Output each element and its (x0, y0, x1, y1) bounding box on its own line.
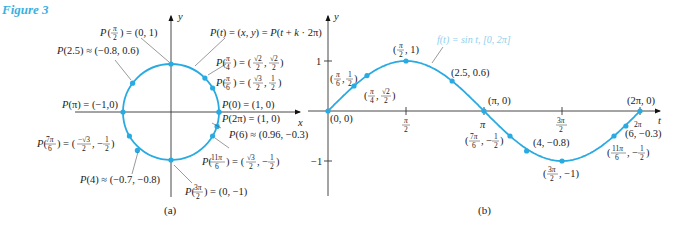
svg-text:1: 1 (271, 74, 275, 83)
legend-label: f(t) = sin t, [0, 2π] (437, 34, 511, 46)
svg-text:−√3: −√3 (78, 135, 90, 144)
svg-text:(: ( (465, 135, 469, 147)
svg-text:π: π (113, 24, 117, 33)
svg-text:2: 2 (640, 153, 644, 162)
label-p-4: P(4) ≈ (−0.7, −0.8) (79, 174, 161, 186)
y-axis-label-b: y (333, 11, 339, 22)
svg-text:, 1): , 1) (405, 44, 420, 56)
pt-label-pi: (π, 0) (488, 95, 511, 107)
svg-text:√3: √3 (247, 153, 255, 162)
svg-text:2: 2 (494, 141, 498, 150)
svg-text:6: 6 (336, 79, 340, 88)
label-p-pi-over-6: P( π 6 ) = ( √3 2 , 1 2 ) (215, 74, 282, 92)
circle-point (210, 85, 215, 90)
svg-text:, −: , − (92, 138, 103, 149)
y-axis-label: y (177, 11, 183, 22)
label-p-general: P(t) = (x, y) = P(t + k · 2π) (209, 27, 322, 39)
svg-text:P(2.5) ≈ (−0.8, 0.6): P(2.5) ≈ (−0.8, 0.6) (56, 45, 139, 57)
svg-text:7π: 7π (46, 135, 54, 144)
sine-point (364, 73, 369, 78)
panel-a-labels: P( π 2 ) = (0, 1) P(t) = (x, y) = P(t + … (36, 24, 322, 201)
sine-point (450, 78, 455, 83)
tick-1: 1 (316, 56, 321, 67)
legend-leader (432, 47, 443, 63)
tick-minus-1: −1 (311, 156, 322, 167)
label-p-11pi-over-6: P( 11π 6 ) = ( √3 2 , − 1 2 ) (201, 153, 280, 171)
circle-point (168, 61, 173, 66)
svg-text:1: 1 (494, 132, 498, 141)
svg-text:) = (: ) = ( (233, 77, 252, 89)
svg-text:2: 2 (559, 125, 563, 134)
svg-text:): ) (354, 73, 358, 85)
svg-text:(: ( (607, 147, 611, 159)
sine-point (351, 83, 356, 88)
circle-point (127, 133, 132, 138)
svg-text:): ) (111, 138, 115, 150)
label-p-6: P(6) ≈ (0.96, −0.3) (228, 129, 309, 141)
label-p-2-5: P(2.5) ≈ (−0.8, 0.6) (56, 45, 139, 57)
svg-text:): ) (500, 135, 504, 147)
tick-pi: π (480, 119, 486, 130)
svg-text:4: 4 (226, 63, 230, 72)
t-axis-label: t (658, 115, 662, 126)
svg-text:): ) (278, 77, 282, 89)
pt-label-4: (4, −0.8) (533, 137, 570, 149)
svg-text:√2: √2 (254, 54, 262, 63)
pt-label-7pi6: ( 7π 6 , − 1 2 ) (465, 132, 504, 150)
pt-label-2-5: (2.5, 0.6) (451, 67, 490, 79)
svg-text:2: 2 (113, 33, 117, 42)
svg-text:): ) (392, 90, 396, 102)
svg-text:√2: √2 (382, 87, 390, 96)
svg-text:6: 6 (226, 83, 230, 92)
pt-label-11pi6: ( 11π 6 , − 1 2 ) (607, 144, 650, 162)
sine-point (559, 158, 564, 163)
svg-text:P(: P( (99, 27, 111, 39)
svg-text:, −: , − (257, 156, 268, 167)
svg-text:) = (: ) = ( (226, 156, 245, 168)
svg-text:π: π (399, 41, 403, 50)
svg-text:1: 1 (270, 153, 274, 162)
circle-point (168, 157, 173, 162)
circle-point (202, 76, 207, 81)
svg-text:): ) (646, 147, 650, 159)
caption-b: (b) (478, 204, 491, 217)
svg-text:2: 2 (272, 63, 276, 72)
svg-text:6: 6 (48, 144, 52, 153)
label-p-0: P(0) = (1, 0) (221, 99, 275, 111)
sine-point (637, 108, 642, 113)
figure-canvas: x y P( π 2 ) = (0, 1) P(t) = (x (0, 0, 675, 233)
svg-text:) = (: ) = ( (233, 57, 252, 69)
svg-text:√3: √3 (254, 74, 262, 83)
svg-text:): ) (276, 156, 280, 168)
svg-text:2: 2 (82, 144, 86, 153)
svg-text:2: 2 (256, 63, 260, 72)
svg-text:, −: , − (481, 135, 492, 146)
circle-point (210, 133, 215, 138)
svg-text:) = (: ) = ( (57, 138, 76, 150)
svg-text:π: π (226, 54, 230, 63)
svg-text:4: 4 (370, 96, 374, 105)
circle-point (120, 109, 125, 114)
svg-text:(: ( (393, 44, 397, 56)
label-p-pi: P(π) = (−1,0) (61, 99, 118, 111)
label-p-7pi-over-6: P( 7π 6 ) = ( −√3 2 , − 1 2 ) (36, 135, 115, 153)
caption-a: (a) (164, 204, 177, 217)
svg-text:1: 1 (105, 135, 109, 144)
svg-text:,: , (264, 57, 267, 68)
circle-point (130, 81, 135, 86)
svg-text:π: π (336, 70, 340, 79)
svg-text:6: 6 (215, 162, 219, 171)
svg-text:2: 2 (384, 96, 388, 105)
panel-b-point-labels: (0, 0) ( π 6 , 1 2 ) ( π 4 , √2 2 (330, 41, 662, 183)
svg-text:1: 1 (640, 144, 644, 153)
label-p-2pi: P(2π) = (1, 0) (221, 113, 280, 125)
svg-text:,: , (342, 73, 345, 84)
svg-text:π: π (370, 87, 374, 96)
panel-b-sine-graph: y t π 2 π 3π 2 2π 1 −1 f(t) = sin t, [0,… (308, 11, 662, 217)
pt-label-origin: (0, 0) (330, 113, 353, 125)
svg-text:2: 2 (105, 144, 109, 153)
svg-text:(: ( (364, 90, 368, 102)
pt-label-3pi2: ( 3π 2 , −1) (543, 165, 579, 183)
svg-text:3π: 3π (194, 183, 202, 192)
svg-text:,: , (376, 90, 379, 101)
